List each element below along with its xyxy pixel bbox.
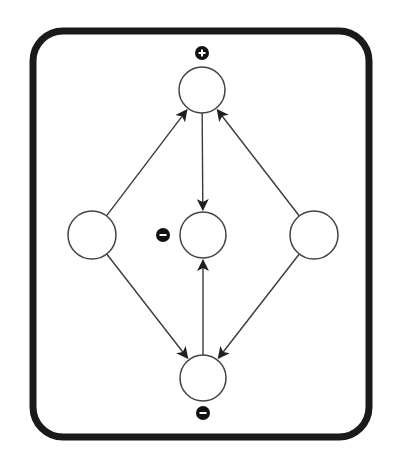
node-top [179,67,225,113]
arrow-top-to-center [202,113,203,210]
node-center [180,212,226,258]
arrow-left-to-top [107,110,187,216]
node-right [290,211,338,259]
minus-badge-icon [196,406,210,420]
network-diagram [0,0,397,468]
node-left [68,211,116,259]
arrow-right-to-bottom [218,254,299,358]
arrow-right-to-top [217,110,299,216]
minus-badge-icon [156,228,170,242]
arrow-left-to-bottom [107,254,188,358]
node-bottom [180,355,226,401]
plus-badge-icon [195,46,209,60]
diagram-canvas [0,0,397,468]
